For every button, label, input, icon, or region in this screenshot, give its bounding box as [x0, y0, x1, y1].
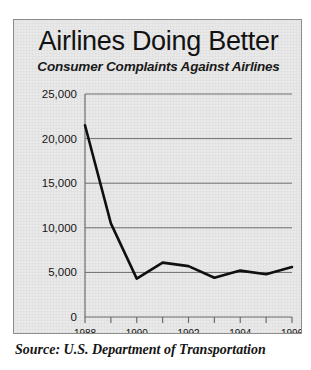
- y-axis-tick-labels-group: 25,00020,00015,00010,0005,0000: [42, 88, 77, 323]
- gridlines-group: [85, 94, 292, 272]
- figure-root: Airlines Doing Better Consumer Complaint…: [0, 0, 311, 370]
- x-axis-tick-label: 1988: [74, 328, 97, 334]
- plot-area: 25,00020,00015,00010,0005,0000 198819901…: [14, 80, 302, 334]
- x-axis-tick-label: 1992: [177, 328, 200, 334]
- x-axis-tick-label: 1994: [229, 328, 252, 334]
- chart-title: Airlines Doing Better: [14, 26, 302, 56]
- y-axis-tick-label: 25,000: [42, 88, 77, 100]
- y-axis-tick-label: 5,000: [48, 266, 77, 278]
- data-series-line: [85, 125, 292, 278]
- x-axis-tick-label: 1990: [126, 328, 149, 334]
- y-axis-tick-label: 20,000: [42, 133, 77, 145]
- y-axis-tick-label: 10,000: [42, 222, 77, 234]
- data-series-line-group: [85, 125, 292, 278]
- chart-subtitle: Consumer Complaints Against Airlines: [14, 59, 302, 75]
- chart-panel: Airlines Doing Better Consumer Complaint…: [13, 19, 302, 334]
- x-axis-tick-labels-group: 19881990199219941996: [74, 328, 302, 334]
- source-note: Source: U.S. Department of Transportatio…: [15, 341, 307, 358]
- x-axis-tick-label: 1996: [281, 328, 302, 334]
- y-axis-tick-label: 0: [71, 311, 77, 323]
- x-axis-ticks-group: [85, 317, 292, 323]
- line-chart-svg: 25,00020,00015,00010,0005,0000 198819901…: [14, 80, 302, 334]
- y-axis-tick-label: 15,000: [42, 177, 77, 189]
